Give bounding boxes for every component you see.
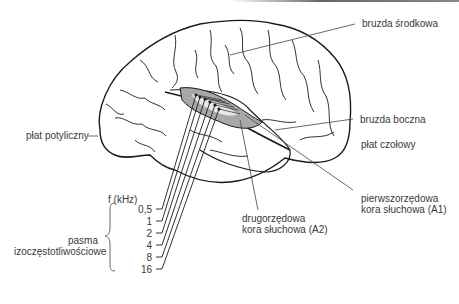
freq-16: 16 [130,264,152,275]
label-a1-line1: pierwszorzędowa [361,193,438,204]
gyri-lines [106,28,334,156]
freq-4: 4 [130,240,152,251]
bands-brace [105,203,115,271]
label-a1-line2: kora słuchowa (A1) [361,204,447,215]
freq-8: 8 [130,252,152,263]
label-lateral-sulcus: bruzda boczna [360,114,426,125]
freq-2: 2 [130,228,152,239]
freq-0-5: 0,5 [130,204,152,215]
label-central-sulcus: bruzda środkowa [362,18,438,29]
label-bands-line1: pasma [68,235,98,246]
frequency-ticks [156,209,162,269]
brain-diagram: bruzda środkowa bruzda boczna płat czoło… [0,0,459,304]
label-a2-line2: kora słuchowa (A2) [242,224,328,235]
label-bands-line2: izoczęstotliwościowe [14,246,106,257]
label-occipital-lobe: płat potyliczny [26,130,89,141]
brain-illustration [0,0,459,304]
label-frontal-lobe: płat czołowy [361,139,415,150]
freq-1: 1 [130,216,152,227]
label-a2-line1: drugorzędowa [242,213,305,224]
